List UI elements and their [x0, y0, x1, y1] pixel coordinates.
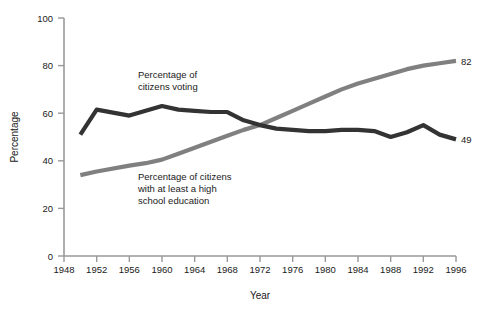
y-tick-label-60: 60 — [42, 108, 53, 119]
education-annotation-line1: Percentage of citizens — [138, 171, 232, 182]
x-tick-label-1968: 1968 — [217, 264, 238, 275]
x-tick-label-1988: 1988 — [380, 264, 401, 275]
x-tick-label-1948: 1948 — [53, 264, 74, 275]
line-chart: 0 20 40 60 80 100 1948 1952 1956 1960 19… — [0, 0, 477, 314]
y-tick-label-100: 100 — [37, 13, 53, 24]
x-tick-label-1952: 1952 — [86, 264, 107, 275]
x-tick-label-1980: 1980 — [315, 264, 336, 275]
x-axis-title: Year — [250, 290, 271, 301]
voting-annotation-line1: Percentage of — [138, 69, 198, 80]
x-tick-label-1992: 1992 — [413, 264, 434, 275]
education-annotation-line2: with at least a high — [137, 183, 217, 194]
x-tick-label-1996: 1996 — [445, 264, 466, 275]
y-tick-label-20: 20 — [42, 203, 53, 214]
x-tick-label-1976: 1976 — [282, 264, 303, 275]
voting-annotation-line2: citizens voting — [138, 81, 198, 92]
x-tick-label-1960: 1960 — [151, 264, 172, 275]
x-tick-label-1956: 1956 — [119, 264, 140, 275]
y-tick-label-0: 0 — [48, 251, 53, 262]
x-tick-label-1972: 1972 — [249, 264, 270, 275]
y-tick-label-40: 40 — [42, 155, 53, 166]
y-tick-label-80: 80 — [42, 60, 53, 71]
y-axis-title: Percentage — [9, 111, 20, 163]
chart-canvas: 0 20 40 60 80 100 1948 1952 1956 1960 19… — [0, 0, 477, 314]
education-annotation-line3: school education — [138, 195, 209, 206]
x-tick-label-1964: 1964 — [184, 264, 205, 275]
voting-end-value-label: 49 — [461, 134, 472, 145]
education-end-value-label: 82 — [461, 56, 472, 67]
x-tick-label-1984: 1984 — [347, 264, 368, 275]
